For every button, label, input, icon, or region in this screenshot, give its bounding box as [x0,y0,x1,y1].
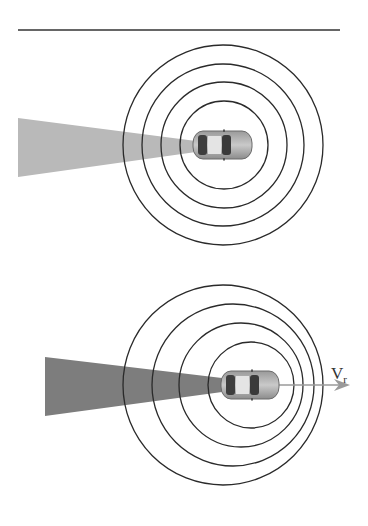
car-mirror [251,370,253,373]
car-icon [221,370,279,401]
car-mirror [251,398,253,401]
car-rear-window [226,375,235,395]
velocity-label: Vr [331,364,347,385]
car-mirror [223,130,225,133]
car-roof [208,136,221,154]
radar-beam [45,357,222,416]
moving-target-panel [45,285,350,485]
car-rear-window [198,135,207,155]
car-icon [193,130,252,161]
car-windshield [250,375,259,395]
velocity-symbol: V [331,364,343,383]
stationary-target-panel [18,45,323,245]
car-roof [236,376,249,394]
radar-beam [18,118,196,177]
radar-doppler-diagram [0,0,368,526]
velocity-subscript: r [343,373,347,385]
car-mirror [223,158,225,161]
car-windshield [222,135,231,155]
